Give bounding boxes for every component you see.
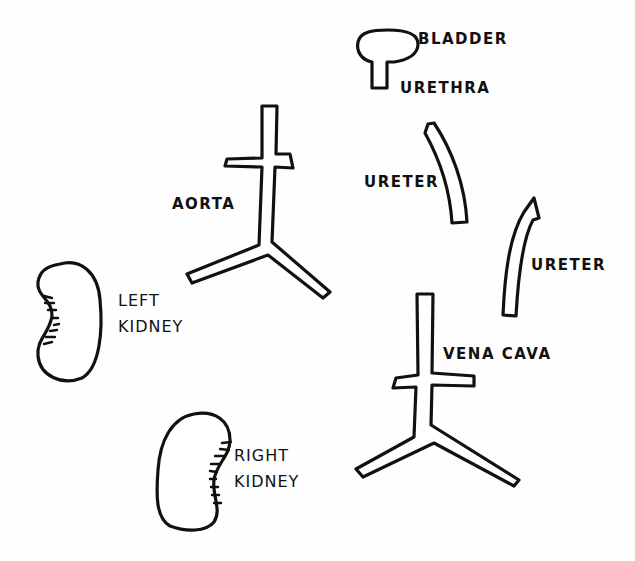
right-kidney-shape xyxy=(157,413,231,530)
vena-cava-shape xyxy=(356,294,519,486)
right-kidney-label: RIGHT KIDNEY xyxy=(234,443,299,495)
urinary-system-diagram: BLADDER URETHRA AORTA URETER URETER LEFT… xyxy=(0,0,635,561)
left-kidney-shape xyxy=(38,263,101,381)
right-kidney-label-line2: KIDNEY xyxy=(234,469,299,495)
vena-cava-label: VENA CAVA xyxy=(443,344,552,364)
left-kidney-label: LEFT KIDNEY xyxy=(118,288,183,340)
ureter-2-label: URETER xyxy=(531,255,606,275)
aorta-label: AORTA xyxy=(172,194,235,214)
left-kidney-label-line1: LEFT xyxy=(118,288,183,314)
urethra-label: URETHRA xyxy=(400,78,490,98)
right-kidney-label-line1: RIGHT xyxy=(234,443,299,469)
ureter-1-label: URETER xyxy=(364,172,439,192)
bladder-label: BLADDER xyxy=(418,29,508,49)
left-kidney-label-line2: KIDNEY xyxy=(118,314,183,340)
diagram-drawing xyxy=(0,0,635,561)
